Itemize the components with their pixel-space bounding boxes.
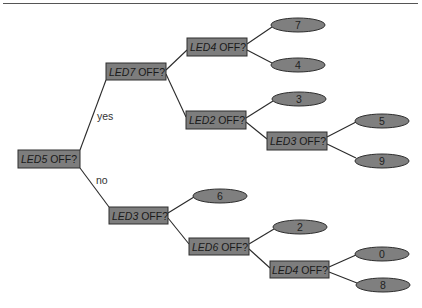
svg-text:LED3 OFF?: LED3 OFF? [112,210,168,222]
edge-label-no: no [96,174,108,186]
decision-node-led6: LED6 OFF? [189,238,249,255]
leaf-node-3: 3 [272,92,326,106]
decision-node-root: LED5 OFF? [18,150,80,168]
edge-led2-3 [246,101,273,118]
svg-text:LED3 OFF?: LED3 OFF? [270,135,326,147]
leaf-node-6: 6 [193,189,247,203]
edge-led4b-8 [329,272,357,283]
decision-node-led7: LED7 OFF? [106,63,166,80]
edge-led7-led4 [166,50,187,70]
edge-led7-led2 [166,74,186,117]
decision-node-led3-lower: LED3 OFF? [109,207,168,224]
decision-node-led2: LED2 OFF? [186,111,246,129]
edge-label-yes: yes [97,110,113,122]
svg-text:0: 0 [379,248,385,260]
edge-led4b-0 [329,255,356,267]
leaf-node-0: 0 [355,247,409,261]
svg-text:8: 8 [380,279,386,291]
svg-text:LED7 OFF?: LED7 OFF? [109,66,165,78]
leaf-node-7: 7 [271,18,325,32]
decision-tree-diagram: yes no LED5 OFF? LED7 OFF? LED4 OFF? LED… [0,0,422,308]
edge-led4-7 [247,27,272,44]
leaf-node-2: 2 [273,220,327,234]
svg-text:LED2 OFF?: LED2 OFF? [189,114,245,126]
svg-text:LED4 OFF?: LED4 OFF? [272,264,328,276]
leaf-node-4: 4 [271,58,325,72]
leaf-node-5: 5 [355,114,409,128]
decision-node-led4-lower: LED4 OFF? [270,261,329,278]
svg-text:4: 4 [295,59,301,71]
edge-led6-led4 [249,249,270,268]
edge-led3-9 [327,144,356,158]
svg-text:LED6 OFF?: LED6 OFF? [192,241,248,253]
leaf-node-8: 8 [356,278,410,292]
edge-led2-led3 [246,122,267,139]
svg-text:6: 6 [217,190,223,202]
decision-node-led4-top: LED4 OFF? [187,38,247,56]
edge-led6-2 [249,229,274,244]
edge-led3b-led6 [168,218,189,244]
leaf-node-9: 9 [355,154,409,168]
svg-text:9: 9 [379,155,385,167]
svg-text:LED4 OFF?: LED4 OFF? [190,41,246,53]
decision-node-led3-upper: LED3 OFF? [267,132,327,150]
edge-led3-5 [327,122,356,137]
svg-text:5: 5 [379,115,385,127]
edge-led3b-6 [168,197,194,213]
edge-led4-4 [247,50,272,63]
svg-text:3: 3 [296,93,302,105]
svg-text:2: 2 [297,221,303,233]
svg-text:LED5 OFF?: LED5 OFF? [21,153,77,165]
svg-text:7: 7 [295,19,301,31]
